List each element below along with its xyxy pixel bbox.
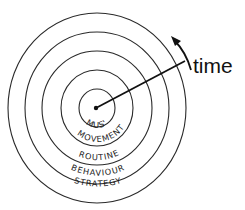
- arrowhead-icon: [171, 36, 181, 46]
- concentric-diagram: time MUS' MOVEMENT ROUTINE BEHAVIOUR STR…: [0, 0, 245, 210]
- label-mus: MUS': [85, 117, 109, 130]
- time-ray: [96, 61, 185, 108]
- label-routine: ROUTINE: [77, 147, 120, 162]
- time-label: time: [193, 54, 233, 77]
